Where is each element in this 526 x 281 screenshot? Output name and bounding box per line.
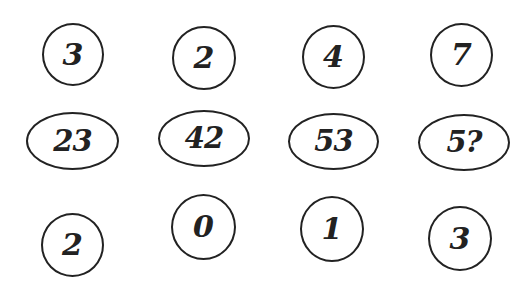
middle-ellipse-1: 23 bbox=[26, 112, 119, 170]
bottom-circle-2: 0 bbox=[171, 194, 236, 260]
top-circle-3-number: 4 bbox=[323, 42, 344, 72]
middle-ellipse-2-number: 42 bbox=[185, 124, 223, 153]
middle-ellipse-4: 5? bbox=[418, 114, 510, 171]
bottom-circle-3-number: 1 bbox=[322, 214, 343, 244]
bottom-circle-3: 1 bbox=[300, 196, 364, 262]
middle-ellipse-4-number: 5? bbox=[446, 128, 481, 157]
middle-ellipse-3: 53 bbox=[288, 113, 379, 170]
bottom-circle-1: 2 bbox=[41, 213, 104, 277]
bottom-circle-2-number: 0 bbox=[193, 212, 214, 242]
top-circle-3: 4 bbox=[302, 25, 365, 89]
middle-ellipse-2: 42 bbox=[158, 110, 250, 167]
top-circle-4: 7 bbox=[430, 23, 493, 87]
top-circle-4-number: 7 bbox=[451, 40, 472, 70]
top-circle-2: 2 bbox=[172, 26, 236, 90]
middle-ellipse-3-number: 53 bbox=[314, 127, 352, 156]
bottom-circle-4-number: 3 bbox=[450, 224, 471, 254]
top-circle-1-number: 3 bbox=[63, 40, 84, 70]
middle-ellipse-1-number: 23 bbox=[53, 127, 91, 156]
bottom-circle-4: 3 bbox=[428, 206, 492, 271]
top-circle-2-number: 2 bbox=[194, 43, 215, 73]
top-circle-1: 3 bbox=[42, 23, 104, 86]
bottom-circle-1-number: 2 bbox=[62, 230, 83, 260]
